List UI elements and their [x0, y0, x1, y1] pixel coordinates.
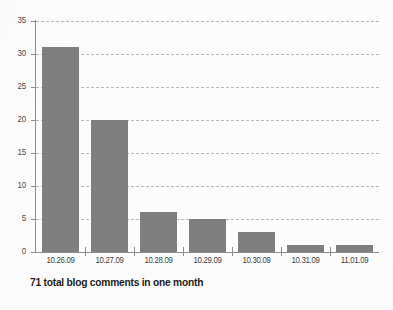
y-axis-tick-label: 30: [5, 48, 26, 58]
y-axis-tick-label: 15: [5, 147, 26, 157]
bar[interactable]: [42, 47, 79, 252]
y-axis-tick-label: 35: [5, 15, 26, 25]
bar[interactable]: [238, 232, 275, 252]
chart-caption: 71 total blog comments in one month: [30, 276, 203, 288]
y-axis-tick: [31, 252, 36, 253]
x-axis-tick-label: 10.29.09: [185, 255, 230, 265]
y-axis-tick-label: 0: [5, 246, 26, 256]
bar-chart: 05101520253035 10.26.0910.27.0910.28.091…: [0, 0, 393, 310]
y-axis-tick-label: 20: [5, 114, 26, 124]
x-axis-tick-label: 10.26.09: [38, 255, 83, 265]
x-axis-tick-label: 10.28.09: [136, 255, 181, 265]
x-axis-tick: [281, 247, 282, 256]
x-axis-tick-label: 11.01.09: [332, 255, 377, 265]
x-axis-tick: [232, 247, 233, 256]
bar[interactable]: [189, 219, 226, 252]
bar[interactable]: [336, 245, 373, 252]
x-axis-tick-label: 10.31.09: [283, 255, 328, 265]
y-axis-tick-label: 25: [5, 81, 26, 91]
x-axis-tick: [134, 247, 135, 256]
bar[interactable]: [287, 245, 324, 252]
x-axis-tick: [183, 247, 184, 256]
x-axis-tick-label: 10.27.09: [87, 255, 132, 265]
bars: [36, 21, 379, 252]
x-axis-line: [36, 252, 379, 253]
y-axis-tick-label: 10: [5, 180, 26, 190]
x-axis-tick: [330, 247, 331, 256]
bar[interactable]: [140, 212, 177, 252]
bar[interactable]: [91, 120, 128, 252]
x-axis-tick: [85, 247, 86, 256]
y-axis-tick-label: 5: [5, 213, 26, 223]
x-axis-tick-label: 10.30.09: [234, 255, 279, 265]
